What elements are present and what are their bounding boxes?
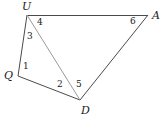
diagonal-group: [27, 15, 80, 100]
vertex-label-A: A: [152, 10, 160, 21]
angle-label-2: 2: [57, 80, 63, 89]
segment-DQ: [18, 76, 80, 100]
angle-label-1: 1: [23, 62, 29, 71]
angle-label-5: 5: [76, 80, 82, 89]
vertex-label-D: D: [81, 105, 90, 116]
angle-label-4: 4: [37, 18, 43, 27]
vertex-label-U: U: [22, 1, 31, 12]
figure-canvas: [0, 0, 168, 119]
segment-AD: [80, 15, 148, 100]
segment-UD-diagonal: [27, 15, 80, 100]
angle-label-3: 3: [27, 32, 33, 41]
angle-label-6: 6: [130, 17, 136, 26]
quadrilateral-outline: [18, 15, 148, 100]
geometry-figure: U A D Q 1 2 3 4 5 6: [0, 0, 168, 119]
vertex-label-Q: Q: [4, 70, 13, 81]
